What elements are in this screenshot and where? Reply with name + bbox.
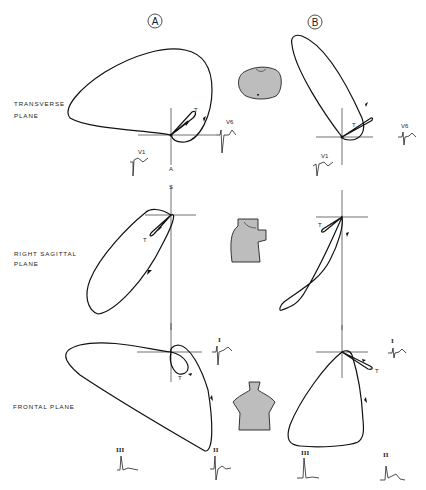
- row-label-sagittal-2: PLANE: [14, 260, 39, 267]
- lead-label: V6: [401, 123, 409, 129]
- row-label-frontal: FRONTAL PLANE: [13, 403, 75, 410]
- lead-label: V1: [321, 153, 329, 159]
- torso-cross-section-icon: [239, 67, 282, 99]
- lead-label: II: [383, 451, 389, 459]
- lead-label: V6: [226, 119, 234, 125]
- lead-label: III: [116, 446, 124, 454]
- axis-a-label: A: [169, 166, 173, 172]
- frontal-b-iii-ecg: III: [297, 449, 319, 478]
- t-label: T: [318, 222, 322, 228]
- transverse-b-v1-ecg: V1: [313, 153, 333, 176]
- transverse-a-v1-ecg: V1: [130, 149, 148, 176]
- frontal-a-loop: T: [66, 323, 213, 451]
- t-label: T: [375, 368, 379, 374]
- lead-label: V1: [138, 149, 146, 155]
- torso-front-view-icon: [233, 382, 275, 430]
- frontal-b-ii-ecg: II: [380, 451, 405, 480]
- row-label-sagittal: RIGHT SAGITTAL: [14, 250, 77, 257]
- sagittal-a-loop: S T: [87, 184, 196, 330]
- t-label: T: [194, 107, 198, 113]
- column-header-b: B: [308, 15, 322, 29]
- column-header-a: A: [148, 14, 162, 28]
- column-a-label: A: [152, 16, 159, 27]
- row-label-transverse: TRANSVERSE: [14, 100, 65, 107]
- axis-s-label: S: [169, 184, 173, 190]
- t-label: T: [178, 375, 182, 381]
- frontal-b-i-ecg: I: [388, 337, 406, 358]
- lead-label: III: [301, 449, 309, 457]
- t-label: T: [143, 237, 147, 243]
- sagittal-b-loop: T: [280, 190, 368, 330]
- frontal-b-loop: T: [288, 325, 379, 447]
- frontal-a-iii-ecg: III: [116, 446, 138, 470]
- t-label: T: [352, 122, 356, 128]
- transverse-b-loop: T: [292, 35, 373, 165]
- vectorcardiogram-figure: A B TRANSVERSE PLANE RIGHT SAGITTAL PLAN…: [0, 0, 426, 490]
- transverse-b-v6-ecg: V6: [398, 123, 416, 145]
- row-label-transverse-2: PLANE: [14, 112, 39, 119]
- torso-side-view-icon: [231, 219, 266, 262]
- frontal-a-ii-ecg: II: [210, 446, 231, 480]
- transverse-a-v6-ecg: V6: [216, 119, 236, 153]
- lead-label: II: [213, 446, 219, 454]
- lead-label: I: [218, 336, 221, 344]
- frontal-a-i-ecg: I: [212, 336, 232, 365]
- lead-label: I: [391, 337, 394, 345]
- column-b-label: B: [312, 17, 319, 28]
